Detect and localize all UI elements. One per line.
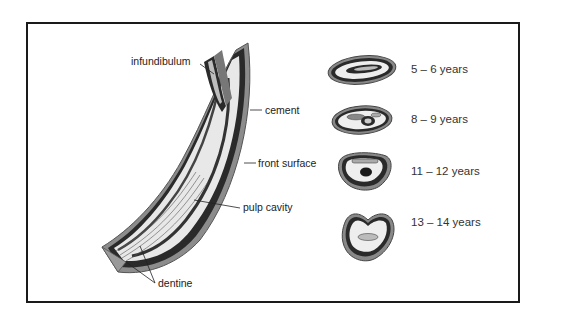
cross-section-11-12-years [338,153,391,190]
age-label-11-12: 11 – 12 years [411,165,480,178]
label-pulp-cavity: pulp cavity [243,201,293,213]
cross-section-13-14-years [342,214,394,261]
age-label-5-6: 5 – 6 years [411,63,468,76]
age-label-8-9: 8 – 9 years [411,113,468,126]
label-front-surface: front surface [258,157,316,169]
cross-section-8-9-years [331,104,393,136]
label-cement: cement [265,104,299,116]
longitudinal-tooth-section [102,43,250,273]
label-dentine: dentine [158,277,192,289]
cross-section-5-6-years [327,53,398,88]
label-infundibulum: infundibulum [131,55,191,67]
age-label-13-14: 13 – 14 years [411,216,481,229]
